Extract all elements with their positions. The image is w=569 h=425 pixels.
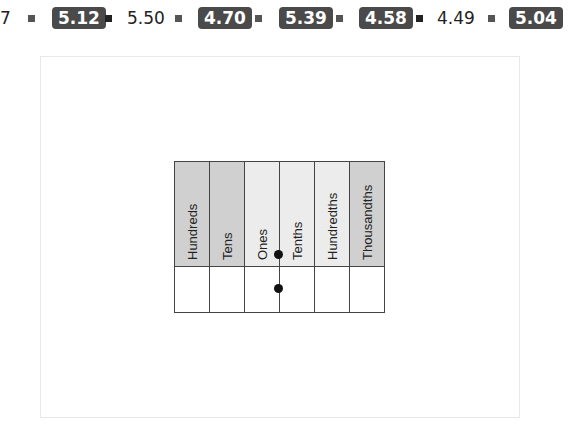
strip-item: 5.12 bbox=[52, 7, 106, 29]
number-badge: 5.04 bbox=[509, 7, 563, 29]
strip-item bbox=[28, 7, 35, 29]
column-tenths: Tenths bbox=[280, 162, 315, 267]
bullet-icon bbox=[28, 15, 35, 22]
strip-item bbox=[175, 7, 182, 29]
number-text: 5.50 bbox=[127, 8, 165, 28]
strip-item: 5.04 bbox=[509, 7, 563, 29]
strip-item bbox=[105, 7, 112, 29]
strip-item: 4.70 bbox=[198, 7, 252, 29]
bullet-icon bbox=[255, 15, 262, 22]
number-strip: 7 5.12 5.50 4.70 5.39 4.58 4.49 5.04 bbox=[0, 0, 569, 34]
number-badge: 5.12 bbox=[52, 7, 106, 29]
strip-item bbox=[488, 7, 495, 29]
number-badge: 4.58 bbox=[359, 7, 413, 29]
bullet-icon bbox=[488, 15, 495, 22]
number-badge: 4.70 bbox=[198, 7, 252, 29]
bullet-icon bbox=[175, 15, 182, 22]
digit-cell bbox=[315, 267, 350, 313]
digit-cell bbox=[280, 267, 315, 313]
column-tens: Tens bbox=[210, 162, 245, 267]
decimal-point-dot bbox=[274, 284, 283, 293]
truncated-number: 7 bbox=[0, 8, 11, 28]
number-badge: 5.39 bbox=[279, 7, 333, 29]
bullet-icon bbox=[416, 15, 423, 22]
digit-cell bbox=[350, 267, 385, 313]
bullet-icon bbox=[336, 15, 343, 22]
strip-item: 4.58 bbox=[359, 7, 413, 29]
strip-item: 5.39 bbox=[279, 7, 333, 29]
number-text: 4.49 bbox=[437, 8, 475, 28]
strip-item: 5.50 bbox=[127, 7, 165, 29]
decimal-point-dot bbox=[274, 250, 283, 259]
strip-item: 4.49 bbox=[437, 7, 475, 29]
digit-cell bbox=[210, 267, 245, 313]
column-thousandths: Thousandths bbox=[350, 162, 385, 267]
strip-item bbox=[336, 7, 343, 29]
column-hundreds: Hundreds bbox=[175, 162, 210, 267]
digit-cell bbox=[175, 267, 210, 313]
bullet-icon bbox=[105, 15, 112, 22]
column-hundredths: Hundredths bbox=[315, 162, 350, 267]
strip-item bbox=[255, 7, 262, 29]
strip-item bbox=[416, 7, 423, 29]
